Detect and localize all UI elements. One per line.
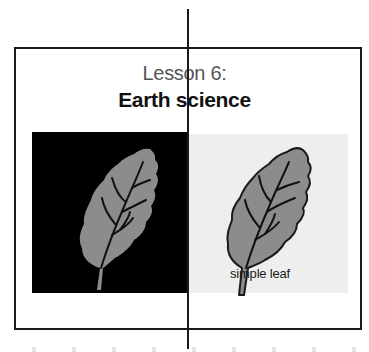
vertical-divider-line [187,9,189,349]
leaf-icon [60,140,180,295]
lesson-title-heading: Earth science [0,88,369,112]
document-page: Lesson 6: Earth science simple leaf [0,0,369,352]
lesson-number-heading: Lesson 6: [0,62,369,85]
cropped-text-fragment [14,347,358,352]
leaf-caption: simple leaf [230,266,290,281]
